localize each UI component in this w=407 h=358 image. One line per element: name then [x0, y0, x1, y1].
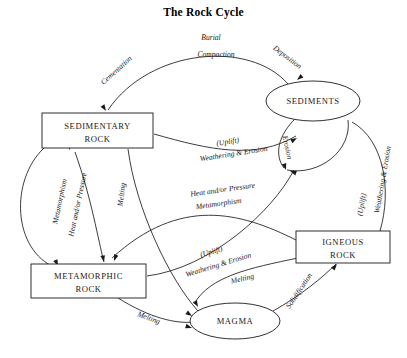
node-igneous-label-line1: IGNEOUS: [322, 237, 364, 247]
node-sediments[interactable]: SEDIMENTS: [266, 81, 360, 121]
node-sedimentary[interactable]: SEDIMENTARYROCK: [42, 113, 153, 148]
edge-sediments-to-sedimentary: [108, 56, 288, 110]
node-sediments-label-line1: SEDIMENTS: [286, 96, 339, 106]
arrowhead-glyph: [296, 74, 304, 82]
edge-label-deposition: Deposition: [271, 43, 304, 71]
edge-label-heat-pressure-left: Heat and/or Pressure: [66, 171, 89, 238]
arrow-into-igneous-bottom: [331, 263, 339, 271]
edge-label-weathering-erosion-upper: Weathering & Erosion: [199, 144, 268, 164]
edge-label-metamorphism-left: Metamorphism: [50, 178, 69, 226]
edge-label-uplift-right: (Uplift): [355, 192, 368, 216]
arrow-into-metamorphic-right: [112, 254, 119, 262]
arrow-into-sediments-right: [289, 169, 297, 176]
edge-label-weathering-erosion-right: Weathering & Erosion: [372, 145, 393, 214]
arrow-into-sediments-top: [296, 74, 304, 82]
node-igneous[interactable]: IGNEOUSROCK: [296, 231, 390, 263]
node-metamorphic-label-line1: METAMORPHIC: [54, 271, 123, 281]
node-sedimentary-label-line1: SEDIMENTARY: [64, 121, 130, 131]
edge-label-uplift-lower: (Uplift): [199, 244, 224, 259]
node-magma[interactable]: MAGMA: [190, 303, 280, 339]
arrowhead-glyph: [100, 255, 106, 262]
edge-sedimentary-to-metamorphic-left: [21, 148, 56, 268]
edge-label-melting-sedimentary: Melting: [115, 182, 127, 208]
edge-label-heat-pressure-mid: Heat and/or Pressure: [189, 180, 256, 198]
arrowhead-glyph: [101, 104, 108, 112]
arrow-into-sedimentary-top: [101, 104, 108, 112]
edge-label-uplift-upper: (Uplift): [216, 135, 240, 148]
diagram-canvas: SEDIMENTARYROCKSEDIMENTSMETAMORPHICROCKI…: [0, 0, 407, 358]
edge-label-melting-metamorphic: Melting: [135, 309, 161, 326]
arrowhead-glyph: [331, 263, 339, 271]
edge-label-solidification: Solidification: [284, 271, 314, 310]
node-igneous-label-line2: ROCK: [330, 250, 356, 260]
edge-label-burial: Burial: [201, 33, 220, 42]
node-metamorphic-label-line2: ROCK: [75, 284, 101, 294]
edge-label-melting-igneous: Melting: [229, 271, 255, 286]
node-magma-label-line1: MAGMA: [217, 316, 254, 326]
nodes-layer: SEDIMENTARYROCKSEDIMENTSMETAMORPHICROCKI…: [31, 81, 390, 339]
arrowhead-glyph: [289, 169, 297, 176]
node-metamorphic[interactable]: METAMORPHICROCK: [31, 264, 146, 298]
edge-label-metamorphism-mid: Metamorphism: [194, 196, 242, 212]
rock-cycle-diagram: The Rock Cycle SEDIMENTARYROCKSEDIMENTSM…: [0, 0, 407, 358]
node-sedimentary-label-line2: ROCK: [84, 134, 110, 144]
edge-label-compaction: Compaction: [197, 50, 234, 59]
arrowhead-glyph: [112, 254, 119, 262]
edge-sediments-loop-right: [287, 120, 348, 171]
arrow-into-metamorphic-inner: [100, 255, 106, 262]
edge-label-cementation: Cementation: [99, 54, 134, 87]
